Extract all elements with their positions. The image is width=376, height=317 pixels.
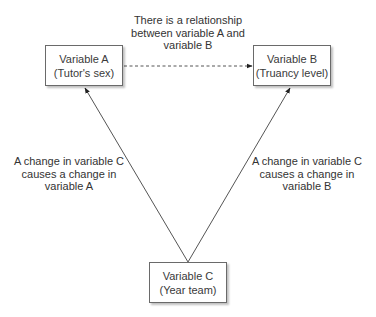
edge-a-b-label-line: variable B [118,39,258,52]
edge-c-a-label-line: causes a change in [4,168,134,181]
edge-c-b-label-line: causes a change in [242,168,372,181]
node-b-title: Variable B [267,52,317,66]
edge-c-a-label-line: variable A [4,180,134,193]
node-b-subtitle: (Truancy level) [256,66,328,80]
node-c-title: Variable C [163,269,214,283]
edge-a-b-label-line: between variable A and [118,27,258,40]
node-a-subtitle: (Tutor's sex) [54,66,114,80]
node-variable-c: Variable C (Year team) [149,262,227,303]
edge-c-b-label-line: A change in variable C [242,155,372,168]
node-variable-b: Variable B (Truancy level) [253,45,331,86]
edge-c-a-label-line: A change in variable C [4,155,134,168]
edge-a-b-label-line: There is a relationship [118,14,258,27]
node-a-title: Variable A [59,52,108,66]
edge-c-b-label-line: variable B [242,180,372,193]
node-variable-a: Variable A (Tutor's sex) [45,45,123,86]
node-c-subtitle: (Year team) [159,283,216,297]
edge-c-b-label: A change in variable C causes a change i… [242,155,372,193]
edge-c-a-label: A change in variable C causes a change i… [4,155,134,193]
edge-a-b-label: There is a relationship between variable… [118,14,258,52]
